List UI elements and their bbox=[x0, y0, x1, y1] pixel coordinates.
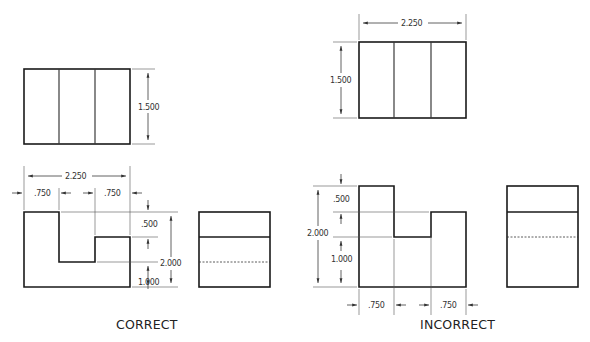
incorrect-front-view: .500 1.000 2.000 .750 .750 bbox=[307, 174, 478, 315]
dim-overall-width: 2.250 bbox=[65, 172, 87, 181]
dim-left-step: .750 bbox=[34, 189, 51, 198]
correct-top-view: 1.500 bbox=[24, 69, 160, 144]
dim-total-height: 2.000 bbox=[307, 229, 329, 238]
correct-side-view bbox=[199, 212, 270, 287]
dim-top-width: 2.250 bbox=[401, 19, 423, 28]
drawing-canvas: 1.500 2.250 .750 .750 .500 1.000 bbox=[0, 0, 590, 342]
dim-lower-height: 1.000 bbox=[331, 255, 353, 264]
dim-right-step: .750 bbox=[440, 301, 457, 310]
dim-left-step: .750 bbox=[368, 301, 385, 310]
correct-caption: CORRECT bbox=[116, 317, 178, 332]
dim-upper-height: .500 bbox=[333, 195, 350, 204]
dim-right-step: .750 bbox=[104, 189, 121, 198]
dim-lower-height: 1.000 bbox=[138, 278, 160, 287]
incorrect-side-view bbox=[507, 186, 578, 287]
dim-top-height: 1.500 bbox=[330, 76, 352, 85]
dim-total-height: 2.000 bbox=[160, 259, 182, 268]
incorrect-top-view: 2.250 1.500 bbox=[330, 14, 466, 118]
dim-height-top: 1.500 bbox=[138, 103, 160, 112]
correct-front-view: 2.250 .750 .750 .500 1.000 2.000 bbox=[12, 166, 182, 289]
incorrect-caption: INCORRECT bbox=[420, 317, 495, 332]
dim-upper-height: .500 bbox=[141, 220, 158, 229]
